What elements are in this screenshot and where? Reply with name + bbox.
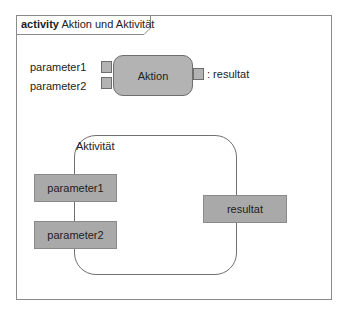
frame-keyword: activity xyxy=(21,18,59,30)
parameter-node-1[interactable]: parameter1 xyxy=(34,174,117,202)
parameter-node-2-label: parameter2 xyxy=(47,229,103,241)
result-node[interactable]: resultat xyxy=(203,195,287,223)
output-pin[interactable] xyxy=(193,68,204,80)
parameter-node-2[interactable]: parameter2 xyxy=(34,221,117,249)
parameter-node-1-label: parameter1 xyxy=(47,182,103,194)
action-node[interactable]: Aktion xyxy=(113,55,193,96)
frame-title: activity Aktion und Aktivität xyxy=(21,18,154,30)
output-pin-label: : resultat xyxy=(207,68,249,80)
frame-name: Aktion und Aktivität xyxy=(61,18,154,30)
result-node-label: resultat xyxy=(227,203,263,215)
input-pin-1[interactable] xyxy=(101,61,112,73)
activity-name: Aktivität xyxy=(76,140,115,152)
input-pin-2[interactable] xyxy=(101,77,112,89)
action-name: Aktion xyxy=(138,70,169,82)
input-pin-label-1: parameter1 xyxy=(30,61,86,73)
input-pin-label-2: parameter2 xyxy=(30,80,86,92)
